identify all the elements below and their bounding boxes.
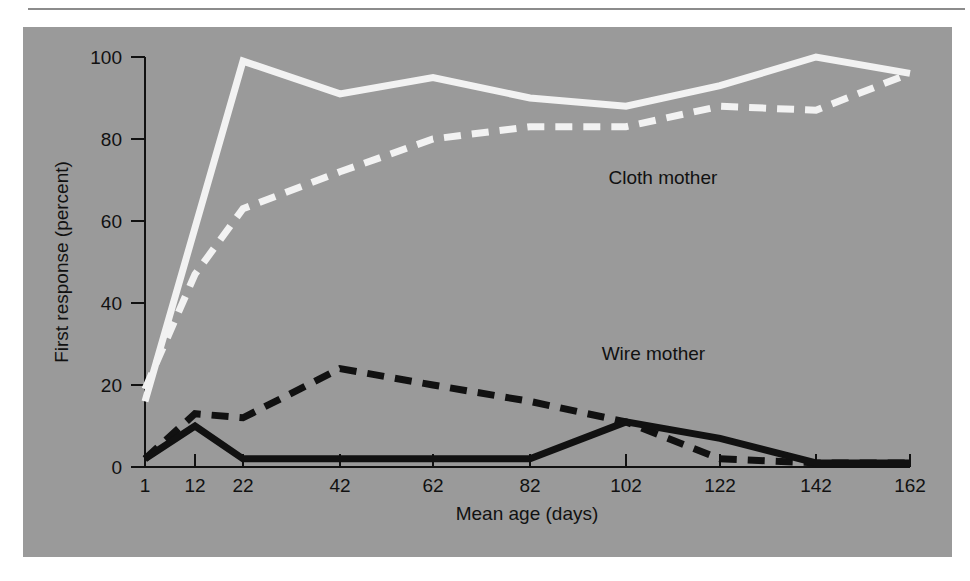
y-tick-label: 80 <box>101 129 122 150</box>
y-tick-label: 100 <box>90 47 122 68</box>
x-tick-label: 62 <box>422 475 443 496</box>
series-line <box>145 369 910 463</box>
x-tick-label: 1 <box>140 475 151 496</box>
y-tick-label: 20 <box>101 375 122 396</box>
x-tick-label: 82 <box>519 475 540 496</box>
x-tick-label: 22 <box>232 475 253 496</box>
axis-lines <box>145 57 910 467</box>
x-tick-label: 162 <box>894 475 926 496</box>
series-annotation-label: Wire mother <box>602 343 706 364</box>
x-tick-label: 102 <box>610 475 642 496</box>
y-tick-label: 40 <box>101 293 122 314</box>
x-tick-label: 122 <box>704 475 736 496</box>
x-axis-title: Mean age (days) <box>456 503 599 524</box>
series-line <box>145 57 910 401</box>
x-tick-label: 42 <box>329 475 350 496</box>
series-annotation-label: Cloth mother <box>609 167 718 188</box>
x-tick-label: 142 <box>800 475 832 496</box>
figure-container: 020406080100 11222426282102122142162 Clo… <box>0 0 970 581</box>
x-axis-tick-labels: 11222426282102122142162 <box>140 475 926 496</box>
y-axis-tick-labels: 020406080100 <box>90 47 122 478</box>
line-chart: 020406080100 11222426282102122142162 Clo… <box>0 0 970 581</box>
y-tick-label: 60 <box>101 211 122 232</box>
y-tick-label: 0 <box>111 457 122 478</box>
x-tick-label: 12 <box>184 475 205 496</box>
y-axis-ticks <box>131 57 145 467</box>
data-series-layer <box>145 57 910 463</box>
series-annotations: Cloth motherWire mother <box>602 167 718 364</box>
series-line <box>145 422 910 463</box>
y-axis-title: First response (percent) <box>51 161 72 363</box>
series-line <box>145 73 910 389</box>
